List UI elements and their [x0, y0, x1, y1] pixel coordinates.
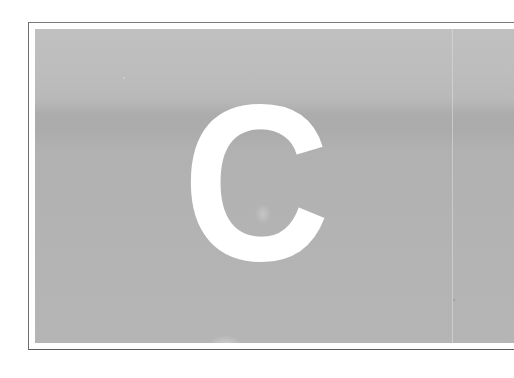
scan-speck	[123, 77, 125, 79]
document-page: C	[0, 0, 514, 378]
chapter-initial-letter: C	[182, 68, 329, 298]
scan-speck	[453, 299, 455, 301]
panel-fold-line	[452, 29, 453, 343]
